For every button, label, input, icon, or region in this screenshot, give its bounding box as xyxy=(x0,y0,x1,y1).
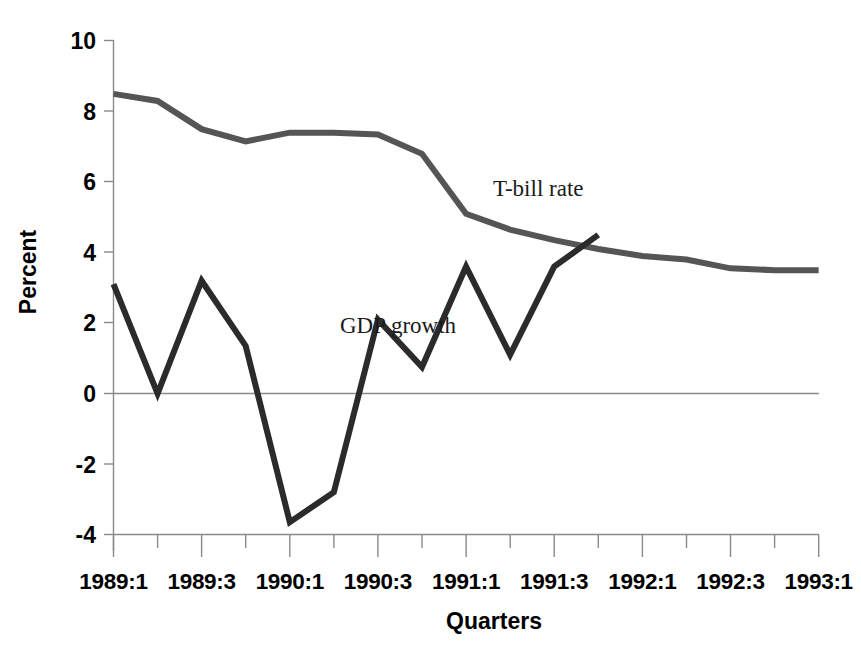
y-tick-label-0: 0 xyxy=(83,381,96,407)
x-tick-label-1989-3: 1989:3 xyxy=(167,569,235,594)
x-tick-label-1990-1: 1990:1 xyxy=(256,569,324,594)
x-tick-marks xyxy=(114,535,819,558)
y-tick-label-8: 8 xyxy=(83,99,96,125)
x-tick-label-1992-1: 1992:1 xyxy=(608,569,676,594)
x-axis-title: Quarters xyxy=(446,608,542,634)
x-tick-label-1990-3: 1990:3 xyxy=(344,569,412,594)
series-line-gdp-growth xyxy=(114,235,599,522)
y-tick-label-6: 6 xyxy=(83,169,96,195)
x-tick-label-1991-1: 1991:1 xyxy=(432,569,500,594)
series-line-t-bill-rate xyxy=(114,94,819,270)
y-tick-label-neg2: -2 xyxy=(76,452,96,478)
y-tick-label-2: 2 xyxy=(83,310,96,336)
y-tick-label-4: 4 xyxy=(83,240,96,266)
y-axis-title: Percent xyxy=(15,229,41,314)
chart-page: 10 8 6 4 2 0 -2 -4 1989:1 xyxy=(0,0,861,651)
x-tick-label-1989-1: 1989:1 xyxy=(79,569,147,594)
y-tick-label-neg4: -4 xyxy=(76,522,97,548)
series-annotation-t-bill-rate: T-bill rate xyxy=(493,176,583,201)
y-tick-label-10: 10 xyxy=(70,28,96,54)
x-tick-label-1993-1: 1993:1 xyxy=(785,569,853,594)
line-chart: 10 8 6 4 2 0 -2 -4 1989:1 xyxy=(0,0,861,651)
x-tick-label-1991-3: 1991:3 xyxy=(520,569,588,594)
series-annotation-gdp-growth: GDP growth xyxy=(340,313,457,338)
x-tick-label-1992-3: 1992:3 xyxy=(696,569,764,594)
